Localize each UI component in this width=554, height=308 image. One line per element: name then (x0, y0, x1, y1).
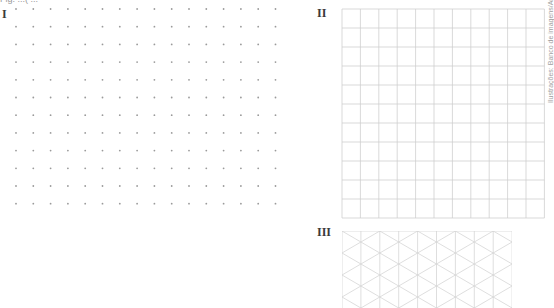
credit-text: Ilustrações: Banco de imagens/Arquivo da… (547, 0, 554, 103)
square-grid-ii (342, 9, 544, 218)
grid-canvas (0, 0, 554, 308)
isometric-grid-iii (342, 0, 512, 308)
dot-grid-i (15, 8, 276, 205)
